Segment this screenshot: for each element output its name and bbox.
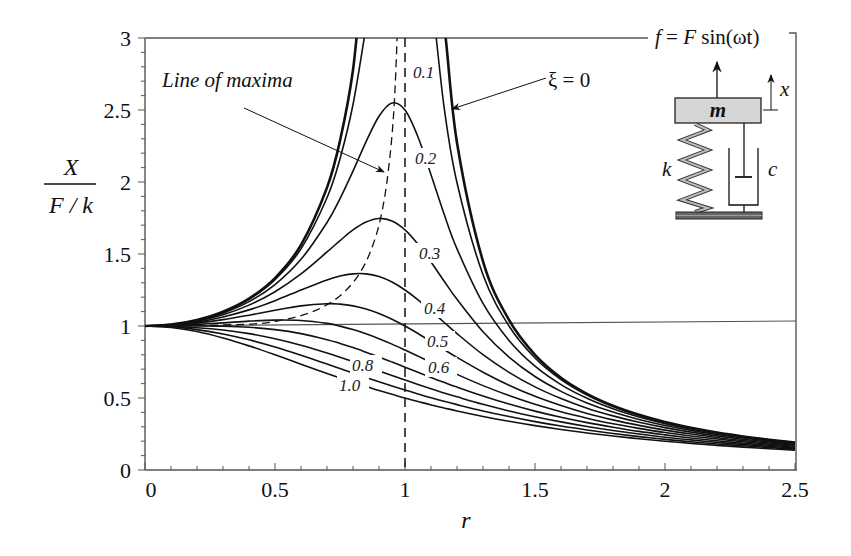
response-curve-xi-0-1	[145, 0, 795, 443]
curve-label-0-6: 0.6	[428, 358, 450, 377]
x-tick-label: 0.5	[261, 477, 289, 502]
y-tick-label: 1.5	[104, 242, 132, 267]
line-of-maxima-arrow	[244, 108, 384, 172]
response-curve-xi-0-3	[145, 218, 795, 443]
x-tick-label: 2.5	[781, 477, 809, 502]
y-tick-label: 0	[120, 458, 131, 483]
xi-zero-arrow	[452, 78, 546, 109]
y-tick-label: 3	[120, 26, 131, 51]
force-equation: f = F sin(ωt)	[655, 25, 759, 49]
xi-zero-label: ξ = 0	[548, 68, 590, 92]
y-axis-title: X F / k	[44, 154, 96, 218]
curve-label-1-0: 1.0	[339, 376, 361, 395]
right-border	[789, 33, 796, 470]
curve-label-0-5: 0.5	[427, 332, 448, 351]
line-of-maxima	[145, 0, 399, 326]
curve-label-0-8: 0.8	[352, 356, 374, 375]
frequency-response-chart: 00.511.522.5300.511.522.5 0.1 0.2 0.3 0.…	[0, 0, 851, 556]
y-tick-label: 2	[120, 170, 131, 195]
force-F: F	[682, 25, 696, 49]
x-tick-label: 1	[400, 477, 411, 502]
y-tick-label: 1	[120, 314, 131, 339]
y-tick-label: 2.5	[104, 98, 132, 123]
x-tick-label: 0	[146, 477, 157, 502]
x-tick-label: 2	[660, 477, 671, 502]
response-curve-xi-0	[145, 0, 392, 326]
curve-label-0-4: 0.4	[424, 299, 446, 318]
mass-label: m	[710, 98, 726, 122]
displacement-label: x	[779, 77, 790, 101]
response-curve-xi-0	[418, 0, 795, 443]
curve-label-0-3: 0.3	[419, 244, 440, 263]
y-tick-label: 0.5	[104, 386, 132, 411]
response-curve-xi-0-4	[145, 274, 795, 445]
spring-label: k	[662, 157, 672, 181]
y-axis-title-numerator: X	[63, 154, 80, 180]
force-sin: sin	[696, 25, 726, 49]
x-tick-label: 1.5	[521, 477, 549, 502]
force-equals: =	[661, 25, 683, 49]
curve-label-0-2: 0.2	[415, 149, 437, 168]
damper-label: c	[768, 157, 778, 181]
line-of-maxima-label: Line of maxima	[161, 68, 293, 92]
annotations: Line of maxima ξ = 0	[161, 68, 590, 172]
x-axis-title: r	[461, 507, 471, 533]
force-arg: (ωt)	[726, 25, 760, 49]
curve-label-0-1: 0.1	[413, 63, 434, 82]
mass-spring-damper-diagram: f = F sin(ωt) x m k c	[648, 25, 790, 219]
y-axis-title-denominator: F / k	[48, 192, 93, 218]
